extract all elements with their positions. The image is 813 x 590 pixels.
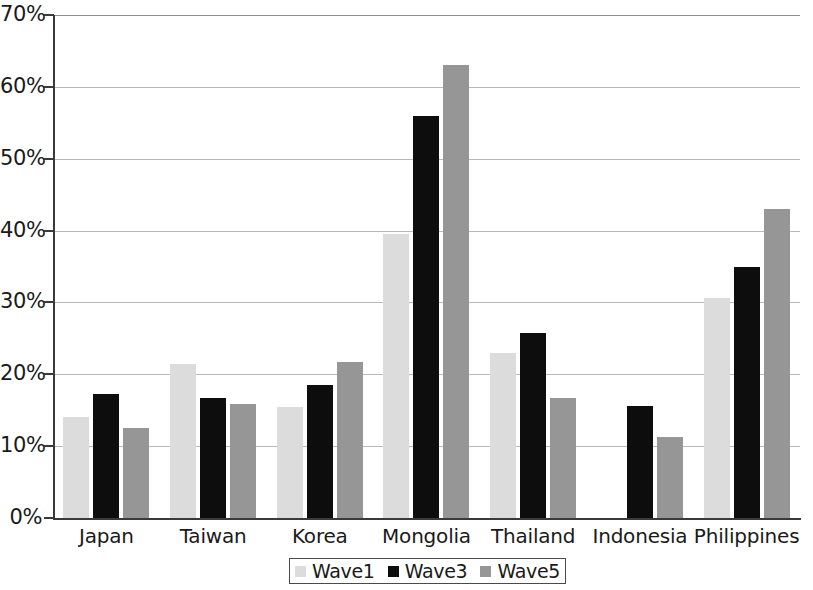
bar <box>704 298 730 518</box>
bar-chart: 0%10%20%30%40%50%60%70% JapanTaiwanKorea… <box>0 0 813 590</box>
bar-group <box>373 15 480 518</box>
legend-item: Wave1 <box>295 562 375 581</box>
bar <box>490 353 516 518</box>
bar <box>200 398 226 518</box>
x-axis-category-label: Japan <box>53 524 160 548</box>
bar <box>443 65 469 518</box>
bar <box>230 404 256 518</box>
legend: Wave1Wave3Wave5 <box>289 558 566 584</box>
bar <box>734 267 760 519</box>
bar-group <box>160 15 267 518</box>
x-axis-category-label: Thailand <box>480 524 587 548</box>
bars-area <box>53 15 800 518</box>
bar <box>764 209 790 518</box>
bar <box>383 234 409 518</box>
y-axis-tick-label: 50% <box>0 148 42 169</box>
legend-label: Wave5 <box>497 562 560 581</box>
y-axis-tick-label: 10% <box>0 435 42 456</box>
bar <box>550 398 576 518</box>
bar <box>307 385 333 518</box>
y-axis-tick-label: 0% <box>0 507 42 528</box>
bar <box>277 407 303 518</box>
y-axis-tick-label: 40% <box>0 220 42 241</box>
y-axis-tick-label: 60% <box>0 76 42 97</box>
bar <box>657 437 683 518</box>
bar-group <box>587 15 694 518</box>
bar <box>123 428 149 518</box>
bar-group <box>693 15 800 518</box>
bar <box>337 362 363 518</box>
bar-group <box>266 15 373 518</box>
legend-item: Wave5 <box>480 562 560 581</box>
bar <box>63 417 89 518</box>
legend-label: Wave3 <box>405 562 468 581</box>
x-axis-category-label: Indonesia <box>587 524 694 548</box>
bar <box>413 116 439 518</box>
y-axis-tick-label: 30% <box>0 291 42 312</box>
y-axis-tick-label: 70% <box>0 4 42 25</box>
bar-group <box>480 15 587 518</box>
bar <box>93 394 119 518</box>
x-axis-line <box>53 518 801 520</box>
y-axis-tick-label: 20% <box>0 363 42 384</box>
x-axis-category-label: Mongolia <box>373 524 480 548</box>
bar <box>520 333 546 518</box>
legend-swatch-icon <box>480 566 491 577</box>
x-axis-category-label: Taiwan <box>160 524 267 548</box>
legend-swatch-icon <box>388 566 399 577</box>
bar <box>170 364 196 518</box>
legend-label: Wave1 <box>312 562 375 581</box>
x-axis-category-label: Korea <box>266 524 373 548</box>
legend-item: Wave3 <box>388 562 468 581</box>
bar-group <box>53 15 160 518</box>
x-axis-category-label: Philippines <box>693 524 800 548</box>
bar <box>627 406 653 518</box>
legend-swatch-icon <box>295 566 306 577</box>
